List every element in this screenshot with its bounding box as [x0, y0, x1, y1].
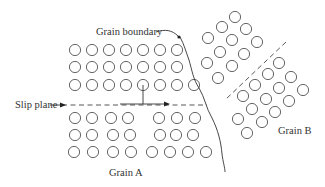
grain-boundary-label: Grain boundary — [96, 26, 163, 37]
background — [0, 0, 325, 187]
grain-a-label: Grain A — [109, 167, 143, 178]
leader-arrowhead-icon — [177, 35, 180, 38]
slip-plane-label: Slip plane — [15, 99, 58, 110]
grain-b-label: Grain B — [278, 125, 312, 136]
grain-boundary-diagram: Grain boundary Slip plane Grain A Grain … — [0, 0, 325, 187]
